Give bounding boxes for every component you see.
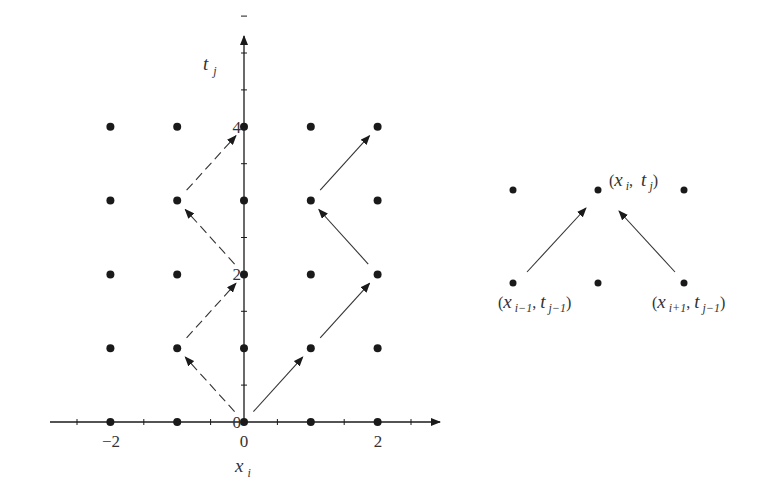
dashed-path-segment (185, 357, 234, 412)
stencil-point-right (681, 280, 688, 287)
stencil-diagram: −2 0 2 0 2 4 xi tj (xi, tj) (xi−1, tj−1)… (0, 0, 772, 504)
stencil-arrow-left (527, 208, 586, 272)
grid-point (106, 197, 114, 205)
grid-point (106, 270, 114, 278)
x-axis-label: xi (234, 455, 251, 480)
grid-point (240, 197, 248, 205)
stencil-point (681, 187, 688, 194)
solid-path-segment (253, 357, 302, 412)
t-tick-label-2: 2 (233, 265, 242, 284)
grid-point (173, 197, 181, 205)
stencil-point-center (595, 187, 602, 194)
x-tick-label-2: 2 (374, 432, 383, 451)
grid-point (173, 344, 181, 352)
grid-point (173, 418, 181, 426)
grid-point (173, 123, 181, 131)
grid-point (307, 270, 315, 278)
x-tick-label-0: 0 (240, 432, 249, 451)
stencil-point (510, 187, 517, 194)
t-tick-label-4: 4 (233, 118, 242, 137)
label-center-point: (xi, tj) (609, 169, 658, 193)
x-tick-label-neg2: −2 (102, 432, 120, 451)
solid-path-segment (319, 209, 368, 264)
grid-point (106, 344, 114, 352)
t-axis-label: tj (203, 53, 217, 78)
grid-point (307, 123, 315, 131)
grid-point (106, 123, 114, 131)
dashed-path-segment (187, 283, 236, 338)
grid-point (240, 123, 248, 131)
stencil (510, 187, 688, 287)
dashed-path-segment (187, 136, 236, 191)
grid-point (240, 344, 248, 352)
stencil-arrow-right (619, 211, 675, 272)
label-right-point: (xi+1, tj−1) (652, 291, 725, 315)
grid-point (240, 270, 248, 278)
stencil-point-left (510, 280, 517, 287)
stencil-point (595, 280, 602, 287)
grid-point (307, 197, 315, 205)
grid-point (374, 270, 382, 278)
dashed-path-segment (185, 209, 234, 264)
grid-point (374, 418, 382, 426)
grid-point (173, 270, 181, 278)
grid-point (307, 344, 315, 352)
grid-point (106, 418, 114, 426)
grid-point (240, 418, 248, 426)
t-tick-label-0: 0 (233, 413, 242, 432)
grid-point (374, 344, 382, 352)
label-left-point: (xi−1, tj−1) (498, 291, 571, 315)
paths (185, 136, 369, 412)
grid-point (307, 418, 315, 426)
grid-point (374, 123, 382, 131)
solid-path-segment (320, 136, 369, 191)
axes (50, 36, 440, 422)
grid-point (374, 197, 382, 205)
solid-path-segment (320, 283, 369, 338)
